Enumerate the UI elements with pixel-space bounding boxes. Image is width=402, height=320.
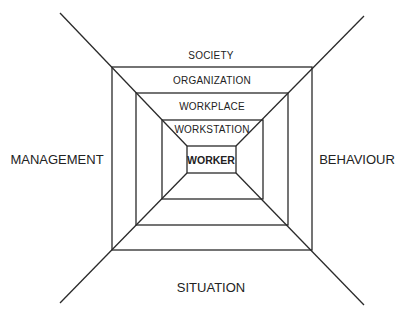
label-workstation: WORKSTATION [174,124,249,135]
diagonal-bottom-left [60,173,187,303]
diagonal-top-right [236,16,364,146]
label-society: SOCIETY [188,50,233,61]
label-management: MANAGEMENT [10,152,103,167]
label-situation: SITUATION [177,280,245,295]
label-organization: ORGANIZATION [173,75,251,86]
diagonal-bottom-right [236,173,364,305]
label-behaviour: BEHAVIOUR [319,152,395,167]
label-workplace: WORKPLACE [179,101,245,112]
label-worker: WORKER [187,154,235,166]
worker-context-diagram: SOCIETY ORGANIZATION WORKPLACE WORKSTATI… [0,0,402,320]
diagonal-top-left [60,13,187,146]
